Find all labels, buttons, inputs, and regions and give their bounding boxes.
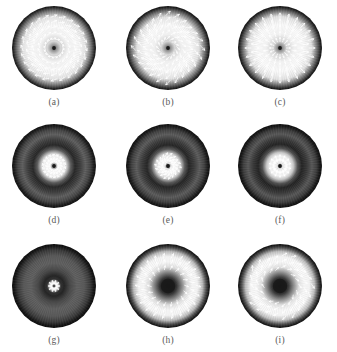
panel-f: (f): [224, 124, 336, 241]
disc-plot-e: [126, 124, 210, 208]
disc-plot-h: [126, 244, 210, 328]
disc-svg-b: [126, 6, 210, 90]
panel-caption-i: (i): [224, 334, 336, 346]
disc-plot-c: [238, 6, 322, 90]
panel-d: (d): [0, 124, 110, 241]
panel-a: (a): [0, 6, 110, 123]
disc-plot-d: [12, 124, 96, 208]
panel-caption-a: (a): [0, 96, 110, 108]
panel-caption-e: (e): [112, 214, 224, 226]
disc-svg-f: [238, 124, 322, 208]
panel-caption-g: (g): [0, 334, 110, 346]
disc-plot-g: [12, 244, 96, 328]
panel-caption-c: (c): [224, 96, 336, 108]
panel-h: (h): [112, 244, 224, 352]
panel-e: (e): [112, 124, 224, 241]
panel-c: (c): [224, 6, 336, 123]
disc-svg-e: [126, 124, 210, 208]
disc-svg-a: [12, 6, 96, 90]
panel-b: (b): [112, 6, 224, 123]
disc-plot-i: [238, 244, 322, 328]
panel-caption-h: (h): [112, 334, 224, 346]
disc-svg-d: [12, 124, 96, 208]
disc-svg-i: [238, 244, 322, 328]
panel-g: (g): [0, 244, 110, 352]
disc-svg-c: [238, 6, 322, 90]
disc-svg-g: [12, 244, 96, 328]
panel-caption-d: (d): [0, 214, 110, 226]
figure-panel-grid: (a)(b)(c)(d)(e)(f)(g)(h)(i): [0, 0, 337, 352]
panel-grid: (a)(b)(c)(d)(e)(f)(g)(h)(i): [0, 0, 337, 352]
panel-caption-f: (f): [224, 214, 336, 226]
panel-caption-b: (b): [112, 96, 224, 108]
disc-plot-f: [238, 124, 322, 208]
disc-plot-b: [126, 6, 210, 90]
disc-svg-h: [126, 244, 210, 328]
disc-plot-a: [12, 6, 96, 90]
panel-i: (i): [224, 244, 336, 352]
